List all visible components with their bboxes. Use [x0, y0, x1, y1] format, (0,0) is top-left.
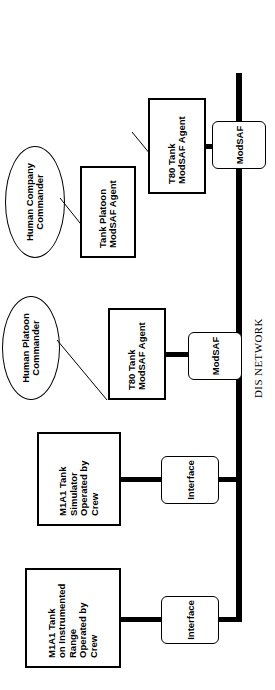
node-human-company-commander[interactable]: Human Company Commander — [5, 146, 65, 258]
node-m1a1-tank-instrumented-range[interactable]: M1A1 Tank on Instrumented Range Operated… — [25, 568, 121, 668]
node-t80-tank-modsaf-agent-lower[interactable]: T80 Tank ModSAF Agent — [108, 308, 166, 400]
node-label: M1A1 Tank Simulator Operated by Crew — [58, 461, 100, 516]
node-label: ModSAF — [210, 337, 221, 376]
link-range-tank-to-interface — [121, 617, 161, 622]
node-label: Interface — [185, 600, 196, 640]
node-label: ModSAF — [234, 126, 245, 165]
node-label: Tank Platoon ModSAF Agent — [98, 180, 119, 248]
node-label: Interface — [185, 460, 196, 500]
node-label: M1A1 Tank on Instrumented Range Operated… — [47, 584, 100, 658]
node-label: Human Platoon Commander — [21, 313, 42, 383]
dis-network-label: DIS NETWORK — [252, 318, 264, 398]
node-label: T80 Tank ModSAF Agent — [167, 116, 188, 184]
diagram-canvas: DIS NETWORK M1A1 Tank on Instrumented Ra… — [0, 0, 275, 690]
node-label: T80 Tank ModSAF Agent — [127, 322, 148, 390]
node-tank-platoon-modsaf-agent[interactable]: Tank Platoon ModSAF Agent — [80, 166, 136, 258]
node-label: Human Company Commander — [25, 163, 46, 241]
connector-platoon-commander-to-t80-agent — [55, 332, 110, 402]
node-modsaf-upper[interactable]: ModSAF — [212, 121, 266, 169]
node-m1a1-tank-simulator[interactable]: M1A1 Tank Simulator Operated by Crew — [37, 432, 121, 526]
node-interface-range[interactable]: Interface — [161, 596, 219, 644]
diagram-canvas-wrapper: DIS NETWORK M1A1 Tank on Instrumented Ra… — [0, 0, 275, 690]
link-interface-simulator-to-bus — [219, 477, 239, 482]
link-simulator-to-interface — [121, 477, 161, 482]
node-human-platoon-commander[interactable]: Human Platoon Commander — [2, 296, 60, 400]
node-t80-tank-modsaf-agent-upper[interactable]: T80 Tank ModSAF Agent — [148, 98, 206, 194]
link-interface-range-to-bus — [219, 617, 239, 622]
node-modsaf-lower[interactable]: ModSAF — [188, 332, 242, 380]
node-interface-simulator[interactable]: Interface — [161, 456, 219, 504]
link-t80-agent-lower-to-modsaf — [166, 352, 188, 357]
